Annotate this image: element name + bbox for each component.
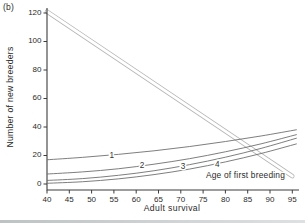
x-tick-label: 95 <box>288 195 297 204</box>
line-chart: 4045505560657075808590950204060801001201… <box>0 0 305 223</box>
curve-label-age-2: 2 <box>140 161 145 170</box>
y-tick-label: 120 <box>28 8 42 17</box>
y-tick-label: 20 <box>33 150 42 159</box>
y-tick-label: 100 <box>28 36 42 45</box>
x-tick-label: 40 <box>43 195 52 204</box>
x-tick-label: 80 <box>221 195 230 204</box>
y-tick-label: 40 <box>33 122 42 131</box>
x-tick-label: 50 <box>87 195 96 204</box>
x-tick-label: 55 <box>109 195 118 204</box>
curve-label-age-1: 1 <box>109 151 114 160</box>
x-tick-label: 85 <box>243 195 252 204</box>
scan-artifact <box>0 220 305 223</box>
x-tick-label: 75 <box>199 195 208 204</box>
curve-label-age-4: 4 <box>215 160 220 169</box>
y-tick-label: 0 <box>37 179 42 188</box>
annotation-age-of-first-breeding: Age of first breeding <box>206 170 285 180</box>
curve-label-age-3: 3 <box>181 162 186 171</box>
x-tick-label: 70 <box>176 195 185 204</box>
x-tick-label: 65 <box>154 195 163 204</box>
x-tick-label: 45 <box>65 195 74 204</box>
x-tick-label: 90 <box>266 195 275 204</box>
x-tick-label: 60 <box>132 195 141 204</box>
y-tick-label: 60 <box>33 93 42 102</box>
y-tick-label: 80 <box>33 65 42 74</box>
series-adult-survival-line <box>47 12 292 177</box>
